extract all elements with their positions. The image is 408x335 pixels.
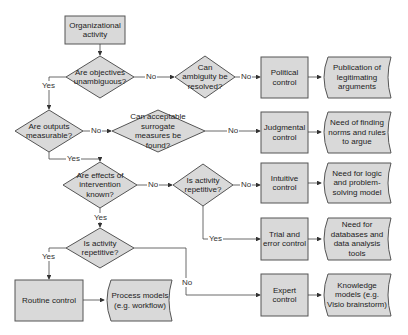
decision-effects: Are effects of intervention known? <box>72 170 128 200</box>
edge-label-no: No <box>240 180 252 189</box>
decision-surrogate: Can acceptable surrogate measures be fou… <box>123 116 193 146</box>
routine-doc-node: Process models (e.g. workflow) <box>110 280 170 321</box>
intuitive-doc-node: Need for logic and problem-solving model <box>326 163 388 203</box>
edge-label-no: No <box>240 72 252 81</box>
judgmental-doc-node: Need of finding norms and rules to argue <box>326 112 388 153</box>
start-node: Organizational activity <box>65 16 125 44</box>
edge-label-no: No <box>145 72 157 81</box>
judgmental-control-node: Judgmental control <box>261 112 308 153</box>
expert-control-node: Expert control <box>261 274 308 316</box>
routine-control-node: Routine control <box>15 280 83 321</box>
decision-repetitive-1: Is activity repetitive? <box>180 173 226 197</box>
political-doc-node: Publication of legitimating arguments <box>326 57 388 98</box>
trial-doc-node: Need for databases and data analysis too… <box>326 218 388 260</box>
edge-label-no: No <box>181 278 193 287</box>
trial-error-control-node: Trial and error control <box>261 218 308 260</box>
edge-label-yes: Yes <box>93 213 108 222</box>
edge-label-no: No <box>147 180 159 189</box>
edge-label-yes: Yes <box>41 252 56 261</box>
edge-label-yes: Yes <box>208 234 223 243</box>
edge-label-no: No <box>227 126 239 135</box>
decision-objectives: Are objectives unambiguous? <box>72 64 128 90</box>
intuitive-control-node: Intuitive control <box>261 163 308 203</box>
edge-label-yes: Yes <box>66 154 81 163</box>
decision-ambiguity: Can ambiguity be resolved? <box>180 61 230 93</box>
decision-outputs: Are outputs measurable? <box>20 118 78 144</box>
edge-label-no: No <box>90 126 102 135</box>
political-control-node: Political control <box>261 57 308 98</box>
decision-repetitive-2: Is activity repetitive? <box>76 236 124 260</box>
expert-doc-node: Knowledge models (e.g. Visio brainstorm) <box>326 274 388 316</box>
edge-label-yes: Yes <box>41 81 56 90</box>
